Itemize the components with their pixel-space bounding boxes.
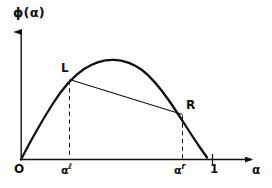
y-axis-label: ϕ(α) [13,6,45,19]
alpha-left-superscript: ℓ [69,162,73,171]
x-tick-label-alpha-right: αr [174,163,186,176]
origin-label: O [14,163,24,175]
alpha-left-base: α [61,164,69,177]
plot-svg [0,0,272,188]
figure-canvas: ϕ(α) α O αℓ αr 1 L R [0,0,272,188]
x-axis-label: α [252,164,260,176]
alpha-right-base: α [174,164,182,177]
x-tick-label-alpha-left: αℓ [61,163,72,176]
phi-curve [21,60,207,160]
point-label-L: L [61,62,69,74]
alpha-right-superscript: r [182,162,186,171]
x-tick-label-one: 1 [210,163,218,175]
point-label-R: R [186,99,195,111]
